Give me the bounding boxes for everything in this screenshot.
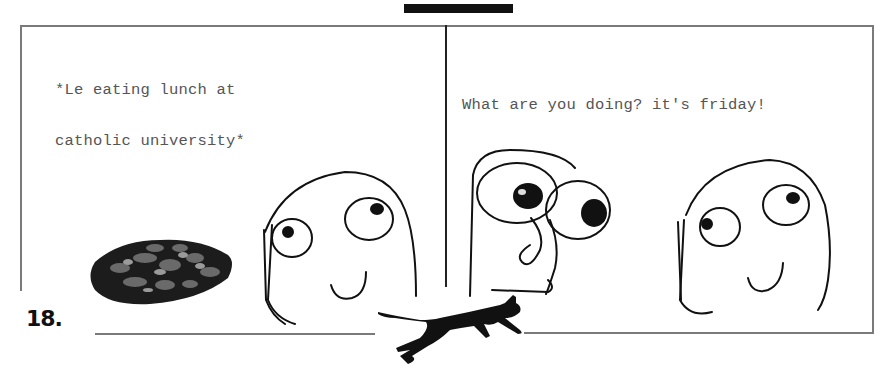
comic-artwork (0, 0, 889, 378)
derp-face-icon-panel-1 (264, 172, 416, 324)
shocked-face-icon (470, 150, 610, 296)
running-cat-icon (378, 295, 522, 364)
meat-tray-icon (91, 240, 233, 304)
comic-strip: *Le eating lunch at catholic university*… (0, 0, 889, 378)
derp-face-icon-panel-2 (678, 160, 830, 314)
